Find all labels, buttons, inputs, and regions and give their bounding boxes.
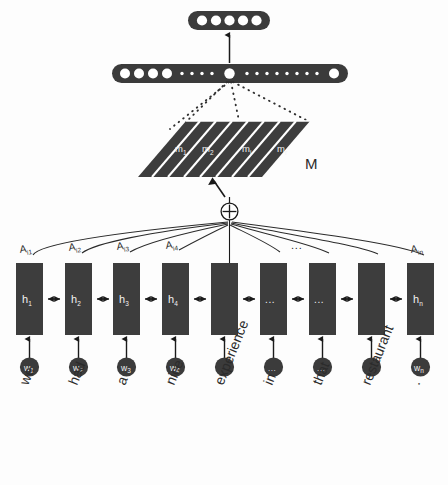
- attention-label-2: Ai3: [116, 239, 130, 254]
- memory-cell-sub-3: r: [285, 149, 288, 156]
- word-node-label-5: ...: [268, 364, 276, 373]
- hidden-node-small: [255, 72, 258, 75]
- hidden-node-small: [265, 72, 268, 75]
- memory-cell-base-1: m: [202, 143, 210, 154]
- rnn-cell-label-5: ...: [265, 294, 275, 305]
- rnn-cell: [65, 263, 92, 335]
- rnn-cell-sub-1: 2: [77, 300, 81, 307]
- attention-sub-3: i4: [173, 244, 179, 252]
- diagram-canvas: m1 m2 mi mr M: [0, 0, 448, 485]
- hidden-node-highlighted: [224, 68, 234, 78]
- hidden-node: [134, 69, 144, 79]
- hidden-node-small: [210, 72, 213, 75]
- memory-matrix-label: M: [305, 155, 318, 172]
- attention-sub-1: i2: [76, 246, 82, 254]
- rnn-cell-sub-2: 3: [125, 300, 129, 307]
- word-label-8: .: [407, 378, 423, 388]
- rnn-cell: [113, 263, 140, 335]
- output-node: [211, 15, 221, 25]
- hidden-node-small: [180, 72, 183, 75]
- output-node: [197, 15, 207, 25]
- attention-label-4: Ain: [410, 242, 424, 257]
- hidden-node-small: [295, 72, 298, 75]
- rnn-cell-sub-3: 4: [174, 300, 178, 307]
- attention-ellipsis: ...: [291, 239, 303, 251]
- hidden-node-small: [245, 72, 248, 75]
- memory-cell-base-2: m: [242, 143, 250, 154]
- memory-cell-sub-1: 2: [210, 149, 214, 156]
- attention-label-1: Ai2: [68, 240, 82, 255]
- memory-cell-base-0: m: [175, 143, 183, 154]
- output-node: [224, 15, 234, 25]
- word-node-sub-2: 3: [127, 367, 131, 374]
- output-node: [251, 15, 261, 25]
- memory-cell-sub-2: i: [250, 149, 251, 156]
- hidden-node: [148, 69, 158, 79]
- hidden-node-small: [275, 72, 278, 75]
- word-node-sub-8: n: [420, 367, 424, 374]
- rnn-cell-sub-0: 1: [28, 300, 32, 307]
- attention-label-3: Ai4: [165, 238, 179, 253]
- hidden-node-small: [315, 72, 318, 75]
- memory-matrix: m1 m2 mi mr M: [138, 121, 318, 177]
- hidden-node: [120, 69, 130, 79]
- attention-curves: [33, 222, 424, 255]
- hidden-node-small: [285, 72, 288, 75]
- memory-cell-base-3: m: [277, 143, 285, 154]
- attention-label-0: Ai1: [19, 242, 33, 257]
- hidden-node: [329, 69, 339, 79]
- memory-cell-sub-0: 1: [183, 149, 187, 156]
- bidirectional-rnn-cells: h1 h2 h3 h4 ... ... hn: [16, 263, 434, 335]
- hidden-node: [162, 69, 172, 79]
- hidden-node-small: [190, 72, 193, 75]
- rnn-cell-sub-8: n: [419, 300, 423, 307]
- representation-layer: [112, 64, 348, 83]
- hidden-node-small: [200, 72, 203, 75]
- rnn-cell: [162, 263, 189, 335]
- output-layer: [188, 11, 270, 30]
- attention-sub-0: i1: [27, 248, 33, 256]
- architecture-diagram: m1 m2 mi mr M: [0, 0, 448, 485]
- hidden-node-small: [305, 72, 308, 75]
- output-node: [238, 15, 248, 25]
- rnn-cell-label-6: ...: [314, 294, 324, 305]
- attention-sub-2: i3: [124, 245, 130, 253]
- rnn-cell: [16, 263, 43, 335]
- attention-sub-4: in: [418, 248, 424, 256]
- rnn-cell: [407, 263, 434, 335]
- arrow-sum-to-matrix: [214, 181, 225, 197]
